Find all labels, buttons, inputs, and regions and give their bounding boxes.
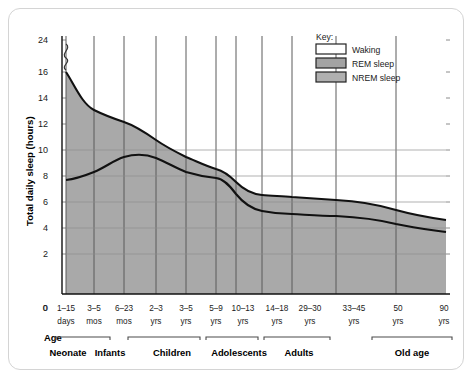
x-tick-1: 3–5	[87, 304, 101, 313]
y-tick-24: 24	[38, 35, 48, 45]
x-tick-0: 1–15	[57, 304, 76, 313]
x-tick-11: 90	[439, 304, 449, 313]
group-label-neonate: Neonate	[50, 347, 87, 358]
x-unit-5: yrs	[211, 317, 222, 326]
x-tick-7: 14–18	[266, 304, 289, 313]
y-tick-labels: 24 16 14 12 10 8 6 4 2 0	[38, 35, 48, 313]
x-tick-labels: 1–15 3–5 6–23 2–3 3–5 5–9 10–13 14–18 29…	[57, 304, 449, 313]
x-tick-4: 3–5	[179, 304, 193, 313]
y-axis-title: Total daily sleep (hours)	[24, 116, 35, 226]
group-label-children: Children	[153, 347, 191, 358]
y-tick-16: 16	[38, 67, 48, 77]
x-tick-2: 6–23	[115, 304, 134, 313]
x-tick-5: 5–9	[209, 304, 223, 313]
x-unit-1: mos	[86, 317, 101, 326]
group-label-old-age: Old age	[395, 347, 429, 358]
x-unit-3: yrs	[151, 317, 162, 326]
legend-title: Key:	[316, 32, 333, 42]
x-tick-6: 10–13	[232, 304, 255, 313]
x-unit-9: yrs	[349, 317, 360, 326]
y-tick-6: 6	[43, 197, 48, 207]
bracket-adults	[264, 337, 330, 340]
x-unit-6: yrs	[238, 317, 249, 326]
x-unit-0: days	[57, 317, 74, 326]
age-group-brackets	[56, 337, 452, 340]
y-tick-12: 12	[38, 119, 48, 129]
x-tick-3: 2–3	[149, 304, 163, 313]
legend-swatch-nrem	[316, 72, 346, 82]
bracket-old-age	[372, 337, 452, 340]
age-group-labels: Neonate Infants Children Adolescents Adu…	[50, 347, 430, 358]
x-unit-8: yrs	[305, 317, 316, 326]
group-label-infants: Infants	[95, 347, 126, 358]
y-tick-14: 14	[38, 93, 48, 103]
x-tick-9: 33–45	[343, 304, 366, 313]
x-tick-units: days mos mos yrs yrs yrs yrs yrs yrs yrs…	[57, 317, 449, 326]
legend-label-rem: REM sleep	[352, 59, 394, 69]
x-unit-4: yrs	[181, 317, 192, 326]
legend-swatch-waking	[316, 44, 346, 54]
legend-label-nrem: NREM sleep	[352, 73, 400, 83]
y-tick-8: 8	[43, 171, 48, 181]
y-tick-10: 10	[38, 145, 48, 155]
x-unit-10: yrs	[393, 317, 404, 326]
legend-swatch-rem	[316, 58, 346, 68]
x-tick-8: 29–30	[299, 304, 322, 313]
group-label-adolescents: Adolescents	[211, 347, 267, 358]
x-unit-7: yrs	[272, 317, 283, 326]
x-unit-11: yrs	[439, 317, 450, 326]
y-tick-4: 4	[43, 223, 48, 233]
bracket-neonate-infants	[56, 337, 110, 340]
y-tick-2: 2	[43, 249, 48, 259]
group-label-adults: Adults	[284, 347, 313, 358]
bracket-children	[128, 337, 200, 340]
legend-label-waking: Waking	[352, 45, 381, 55]
bracket-adolescents	[206, 337, 258, 340]
x-unit-2: mos	[116, 317, 131, 326]
x-tick-origin: 0	[43, 304, 48, 313]
x-tick-10: 50	[393, 304, 403, 313]
sleep-architecture-chart: 24 16 14 12 10 8 6 4 2 0 Total daily sle…	[0, 0, 476, 382]
